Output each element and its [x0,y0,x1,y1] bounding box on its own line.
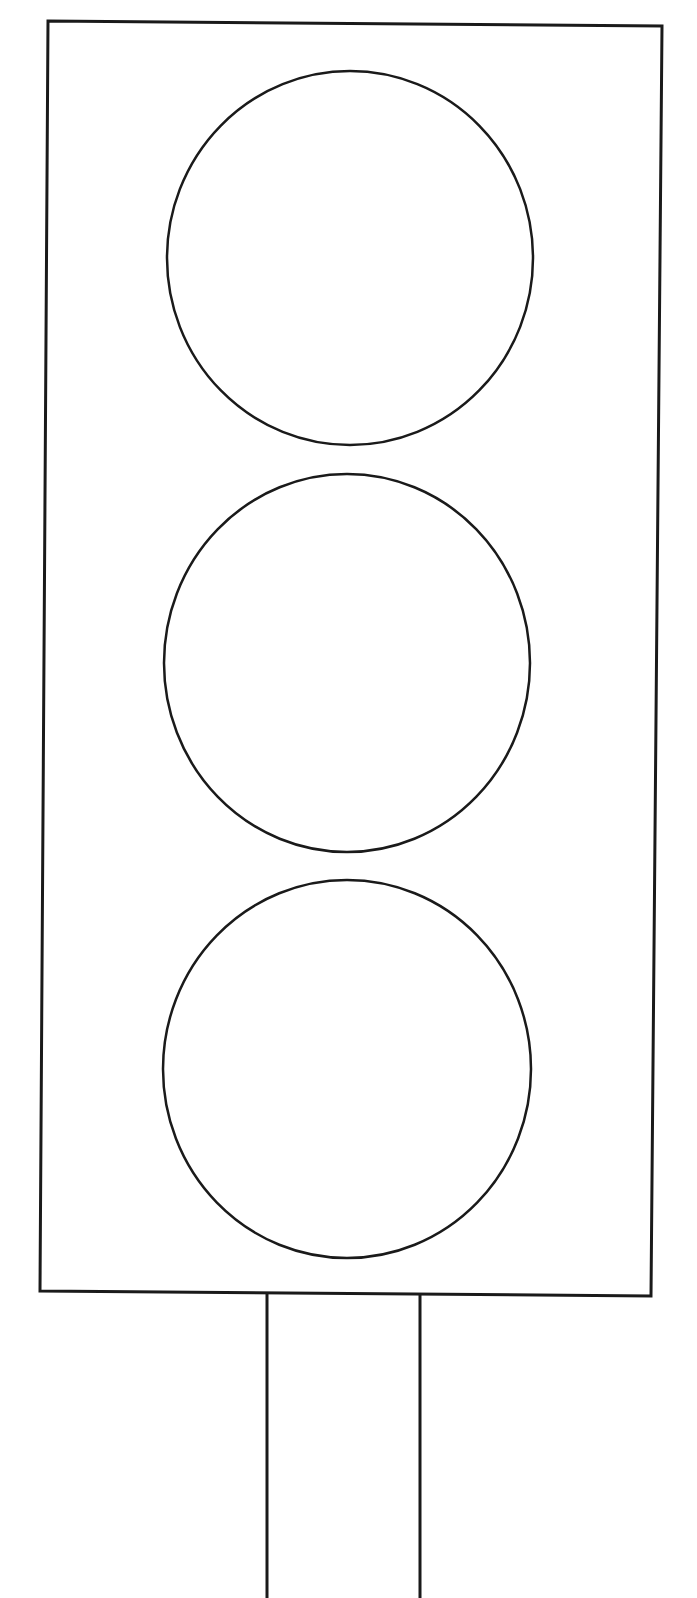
traffic-light-drawing [0,0,697,1598]
bottom-light-circle [163,880,531,1258]
middle-light-circle [164,474,530,852]
top-light-circle [167,71,533,445]
traffic-light-housing [40,21,662,1296]
